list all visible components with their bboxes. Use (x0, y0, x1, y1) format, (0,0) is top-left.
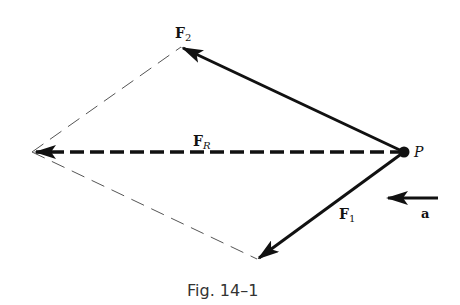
construction-line-lower (32, 152, 257, 259)
label-f1: F1 (339, 206, 355, 224)
label-a: a (421, 206, 430, 221)
vector-f2 (183, 48, 404, 152)
label-p: P (413, 144, 424, 160)
construction-line-upper (32, 47, 181, 152)
force-diagram: P F2 FR F1 a Fig. 14–1 (0, 0, 460, 305)
figure-caption: Fig. 14–1 (187, 281, 258, 300)
point-p (399, 147, 410, 158)
label-f2: F2 (175, 25, 191, 43)
vector-f1 (259, 152, 404, 258)
label-fr: FR (193, 133, 211, 151)
